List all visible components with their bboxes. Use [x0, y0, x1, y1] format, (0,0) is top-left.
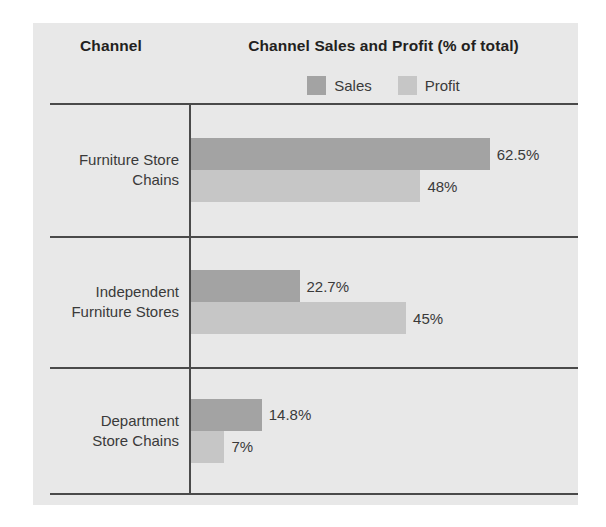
bar-line-sales: 62.5%	[191, 138, 578, 170]
bar-line-profit: 7%	[191, 431, 578, 463]
table-bottom-rule	[50, 493, 578, 495]
sales-bar[interactable]	[191, 270, 300, 302]
sales-value-label: 22.7%	[307, 278, 350, 295]
column-header-row: Channel Channel Sales and Profit (% of t…	[33, 23, 578, 63]
profit-value-label: 7%	[231, 438, 253, 455]
bar-line-sales: 22.7%	[191, 270, 578, 302]
row-label-line-1: Department	[101, 412, 179, 429]
row-bar-group: 14.8% 7%	[191, 399, 578, 463]
row-bar-group: 22.7% 45%	[191, 270, 578, 334]
legend-swatch-icon	[307, 76, 326, 95]
bar-line-sales: 14.8%	[191, 399, 578, 431]
chart-title: Channel Sales and Profit (% of total)	[189, 37, 578, 55]
row-bar-group: 62.5% 48%	[191, 138, 578, 202]
legend-item-profit[interactable]: Profit	[398, 76, 460, 95]
sales-value-label: 14.8%	[269, 406, 312, 423]
legend-label-profit: Profit	[425, 77, 460, 94]
row-label-line-2: Chains	[132, 171, 179, 188]
legend-swatch-icon	[398, 76, 417, 95]
table-row: Department Store Chains 14.8% 7%	[33, 368, 578, 493]
bar-line-profit: 45%	[191, 302, 578, 334]
row-label-furniture-store-chains: Furniture Store Chains	[33, 150, 179, 190]
profit-value-label: 48%	[427, 178, 457, 195]
table-row: Furniture Store Chains 62.5% 48%	[33, 104, 578, 236]
legend-item-sales[interactable]: Sales	[307, 76, 372, 95]
row-label-independent-furniture-stores: Independent Furniture Stores	[33, 282, 179, 322]
sales-value-label: 62.5%	[497, 146, 540, 163]
row-label-line-1: Furniture Store	[79, 151, 179, 168]
legend-label-sales: Sales	[334, 77, 372, 94]
profit-bar[interactable]	[191, 170, 420, 202]
bar-line-profit: 48%	[191, 170, 578, 202]
row-label-line-1: Independent	[96, 283, 179, 300]
table-row: Independent Furniture Stores 22.7% 45%	[33, 237, 578, 367]
sales-bar[interactable]	[191, 399, 262, 431]
sales-bar[interactable]	[191, 138, 490, 170]
chart-legend: Sales Profit	[189, 72, 578, 98]
profit-value-label: 45%	[413, 310, 443, 327]
profit-bar[interactable]	[191, 302, 406, 334]
chart-panel: Channel Channel Sales and Profit (% of t…	[33, 23, 578, 505]
channel-column-header: Channel	[33, 37, 189, 55]
profit-bar[interactable]	[191, 431, 224, 463]
row-label-department-store-chains: Department Store Chains	[33, 411, 179, 451]
row-label-line-2: Store Chains	[92, 432, 179, 449]
row-label-line-2: Furniture Stores	[71, 303, 179, 320]
